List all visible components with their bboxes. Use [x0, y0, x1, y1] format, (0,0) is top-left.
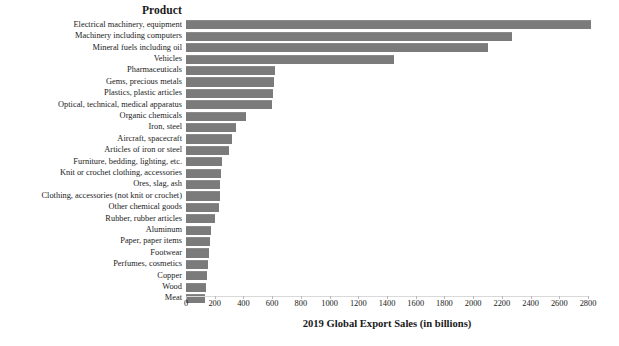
bar-fill: [186, 214, 215, 223]
bar-fill: [186, 66, 275, 75]
bar-row: Clothing, accessories (not knit or croch…: [0, 190, 619, 201]
x-tick-label: 800: [295, 300, 308, 308]
bar-row: Furniture, bedding, lighting, etc.: [0, 156, 619, 167]
x-axis-title: 2019 Global Export Sales (in billions): [186, 318, 588, 329]
bar-fill: [186, 146, 229, 155]
x-tick-label: 1800: [436, 300, 453, 308]
bar: [186, 260, 208, 268]
bar: [186, 169, 221, 177]
bar: [186, 32, 512, 40]
bar-row: Copper: [0, 270, 619, 281]
bar-fill: [186, 123, 236, 132]
bar: [186, 77, 274, 85]
bar-category-label: Ores, slag, ash: [133, 180, 182, 188]
plot-area: Electrical machinery, equipmentMachinery…: [0, 19, 619, 296]
bar-row: Plastics, plastic articles: [0, 87, 619, 98]
bar-fill: [186, 271, 207, 280]
bar-category-label: Mineral fuels including oil: [92, 43, 182, 51]
bar: [186, 43, 488, 51]
bar-category-label: Wood: [162, 283, 182, 291]
bar-category-label: Clothing, accessories (not knit or croch…: [42, 192, 182, 200]
bar-fill: [186, 248, 209, 257]
x-tick-label: 1000: [321, 300, 338, 308]
bar-fill: [186, 226, 211, 235]
bar-fill: [186, 43, 488, 52]
bar-row: Machinery including computers: [0, 30, 619, 41]
bar: [186, 100, 272, 108]
bar-category-label: Vehicles: [154, 55, 182, 63]
bar-fill: [186, 112, 246, 121]
bar-row: Optical, technical, medical apparatus: [0, 99, 619, 110]
bar-fill: [186, 55, 394, 64]
bar-category-label: Aluminum: [146, 226, 182, 234]
bar: [186, 157, 222, 165]
x-tick-label: 2600: [551, 300, 568, 308]
bar: [186, 248, 209, 256]
x-tick-label: 2400: [522, 300, 539, 308]
bar-category-label: Optical, technical, medical apparatus: [58, 100, 182, 108]
x-tick-label: 600: [266, 300, 279, 308]
bar-category-label: Organic chemicals: [120, 112, 182, 120]
bar-category-label: Paper, paper items: [120, 237, 182, 245]
bar: [186, 20, 591, 28]
bar-row: Mineral fuels including oil: [0, 42, 619, 53]
bar-category-label: Other chemical goods: [109, 203, 183, 211]
bar-fill: [186, 169, 221, 178]
bar-row: Vehicles: [0, 53, 619, 64]
bar-fill: [186, 157, 222, 166]
bar-row: Paper, paper items: [0, 236, 619, 247]
bar-row: Footwear: [0, 247, 619, 258]
bar-row: Iron, steel: [0, 122, 619, 133]
bar-fill: [186, 77, 274, 86]
bar-category-label: Aircraft, spacecraft: [117, 135, 182, 143]
bar-row: Gems, precious metals: [0, 76, 619, 87]
bar-fill: [186, 191, 220, 200]
bar-category-label: Copper: [157, 271, 182, 279]
bar-fill: [186, 260, 208, 269]
bar-row: Perfumes, cosmetics: [0, 259, 619, 270]
bar-fill: [186, 237, 210, 246]
bar: [186, 123, 236, 131]
bar-row: Wood: [0, 281, 619, 292]
bar: [186, 134, 232, 142]
bar-category-label: Furniture, bedding, lighting, etc.: [73, 157, 182, 165]
x-tick-label: 2000: [465, 300, 482, 308]
bar-row: Electrical machinery, equipment: [0, 19, 619, 30]
bar-category-label: Rubber, rubber articles: [105, 214, 182, 222]
bar-row: Pharmaceuticals: [0, 65, 619, 76]
x-tick-label: 0: [184, 300, 188, 308]
bar-fill: [186, 100, 272, 109]
x-tick-label: 1200: [350, 300, 367, 308]
bar: [186, 191, 220, 199]
bar: [186, 112, 246, 120]
bar: [186, 180, 220, 188]
bar-row: Organic chemicals: [0, 110, 619, 121]
bar-row: Ores, slag, ash: [0, 179, 619, 190]
x-axis: 2019 Global Export Sales (in billions) 0…: [0, 296, 619, 346]
bar-fill: [186, 20, 591, 29]
bar-category-label: Footwear: [150, 249, 182, 257]
bar-category-label: Pharmaceuticals: [127, 66, 182, 74]
bar-chart: Product Electrical machinery, equipmentM…: [0, 0, 619, 346]
bar-row: Knit or crochet clothing, accessories: [0, 167, 619, 178]
bar: [186, 55, 394, 63]
bar: [186, 203, 219, 211]
bar-row: Aluminum: [0, 224, 619, 235]
bar-fill: [186, 283, 206, 292]
bar-row: Other chemical goods: [0, 202, 619, 213]
bar-category-label: Electrical machinery, equipment: [73, 21, 182, 29]
x-tick-label: 400: [237, 300, 250, 308]
bar: [186, 226, 211, 234]
bar: [186, 271, 207, 279]
bar-category-label: Perfumes, cosmetics: [113, 260, 182, 268]
x-tick-label: 2800: [580, 300, 597, 308]
category-axis-title: Product: [0, 4, 182, 16]
bar-row: Rubber, rubber articles: [0, 213, 619, 224]
x-tick-label: 200: [208, 300, 221, 308]
bar-category-label: Machinery including computers: [75, 32, 182, 40]
bar: [186, 237, 210, 245]
bar: [186, 146, 229, 154]
bar-fill: [186, 134, 232, 143]
bar: [186, 214, 215, 222]
bar: [186, 66, 275, 74]
